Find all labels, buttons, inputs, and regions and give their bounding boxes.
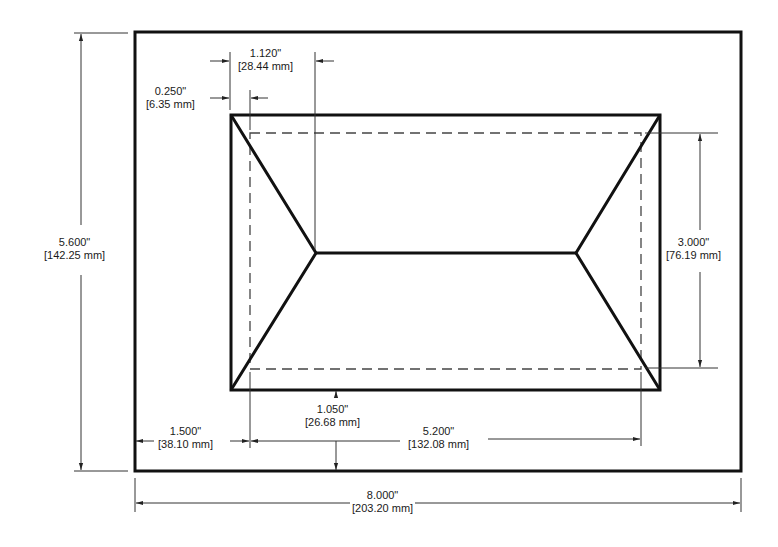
dim-label-opening-width: 5.200" [132.08 mm]	[406, 425, 471, 451]
dim-mm: [132.08 mm]	[408, 438, 469, 451]
dim-mm: [142.25 mm]	[44, 249, 105, 262]
dim-label-opening-height: 3.000" [76.19 mm]	[664, 236, 723, 262]
dim-mm: [28.44 mm]	[238, 60, 293, 73]
dim-mm: [6.35 mm]	[146, 98, 195, 111]
dim-mm: [76.19 mm]	[666, 249, 721, 262]
dim-inches: 1.050"	[305, 403, 360, 416]
dim-label-frame-offset: 0.250" [6.35 mm]	[144, 85, 197, 111]
dim-mm: [38.10 mm]	[158, 438, 213, 451]
dim-inches: 1.120"	[238, 47, 293, 60]
dim-inches: 0.250"	[146, 85, 195, 98]
dim-inches: 8.000"	[352, 489, 413, 502]
dim-inches: 3.000"	[666, 236, 721, 249]
dim-label-bottom-margin: 1.050" [26.68 mm]	[303, 403, 362, 429]
dim-label-left-margin: 1.500" [38.10 mm]	[156, 425, 215, 451]
dimension-drawing	[0, 0, 778, 547]
dim-inches: 5.600"	[44, 236, 105, 249]
bevel-lines	[231, 115, 660, 390]
dim-mm: [26.68 mm]	[305, 416, 360, 429]
dim-label-bevel-width: 1.120" [28.44 mm]	[236, 47, 295, 73]
dim-label-overall-width: 8.000" [203.20 mm]	[350, 489, 415, 515]
cutout-dashed-outline	[250, 133, 641, 369]
dim-inches: 5.200"	[408, 425, 469, 438]
dim-mm: [203.20 mm]	[352, 502, 413, 515]
dim-inches: 1.500"	[158, 425, 213, 438]
dim-label-overall-height: 5.600" [142.25 mm]	[42, 236, 107, 262]
